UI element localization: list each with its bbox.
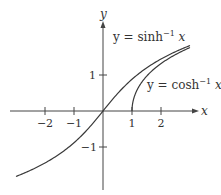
cosh-curve-label: y = cosh−1 x — [146, 77, 221, 92]
y-axis-arrow-icon — [101, 21, 106, 28]
x-tick-label: 2 — [158, 117, 165, 130]
chart: −2 −1 1 2 1 −1 x y y = sinh−1 x y = cosh… — [0, 0, 221, 195]
x-tick-label: 1 — [129, 117, 136, 130]
y-tick-label: 1 — [89, 69, 96, 82]
axes — [10, 26, 194, 190]
sinh-curve-label: y = sinh−1 x — [112, 29, 186, 44]
x-tick-label: −2 — [37, 117, 53, 130]
y-tick-label: −1 — [81, 141, 97, 154]
x-tick-label: −1 — [66, 117, 82, 130]
x-axis-arrow-icon — [192, 109, 199, 114]
y-axis-label: y — [99, 7, 107, 21]
x-axis-label: x — [201, 104, 208, 118]
